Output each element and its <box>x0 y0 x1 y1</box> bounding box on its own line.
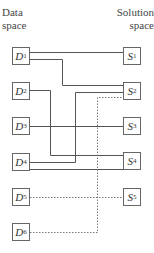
node-d4: D4 <box>12 153 30 171</box>
node-s3: S3 <box>123 117 141 135</box>
node-s5: S5 <box>123 188 141 206</box>
edge-d1-s2 <box>30 60 123 86</box>
node-s1: S1 <box>123 47 141 65</box>
node-d5: D5 <box>12 188 30 206</box>
node-d2: D2 <box>12 82 30 100</box>
node-s4: S4 <box>123 152 141 170</box>
node-d1: D1 <box>12 47 30 65</box>
node-s2: S2 <box>123 82 141 100</box>
edge-d2-s4 <box>30 91 123 156</box>
node-d6: D6 <box>12 223 30 241</box>
edge-d6-s2 <box>30 98 123 233</box>
edge-d4-s2 <box>30 93 123 163</box>
node-d3: D3 <box>12 117 30 135</box>
